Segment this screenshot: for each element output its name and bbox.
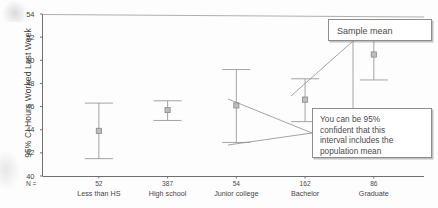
chart-figure: 95% CI Hours Worked Last Week N = 404244… [0, 0, 438, 208]
leader-line-ci-lower [228, 133, 312, 145]
y-axis-tick-label: 44 [19, 125, 35, 134]
mean-marker [165, 107, 170, 112]
error-bar [154, 101, 182, 121]
leader-line-ci-upper [228, 99, 312, 133]
mean-marker [302, 97, 307, 102]
x-axis-category-label: Graduate [334, 189, 414, 198]
x-axis-n-value: 387 [148, 180, 188, 187]
y-axis-tick-label: 42 [19, 148, 35, 157]
n-prefix-label: N = [26, 180, 36, 187]
y-axis-tick-label: 46 [19, 102, 35, 111]
mean-marker [96, 128, 101, 133]
leader-line-sample-mean [291, 41, 353, 96]
annotation-sample-mean-text: Sample mean [337, 26, 393, 36]
y-axis-tick-label: 54 [19, 10, 35, 19]
y-axis-tick-label: 48 [19, 79, 35, 88]
annotation-ci-line-1: You can be 95% [320, 114, 425, 125]
mean-marker [371, 52, 376, 57]
y-axis-tick-label: 52 [19, 33, 35, 42]
x-axis-n-value: 54 [216, 180, 256, 187]
error-bar [85, 103, 113, 159]
annotation-ci-line-4: population mean [320, 146, 425, 157]
top-frame-line [43, 15, 425, 18]
x-axis-n-value: 162 [285, 180, 325, 187]
x-axis-n-value: 86 [354, 180, 394, 187]
annotation-confidence-interval: You can be 95% confident that this inter… [312, 108, 432, 158]
annotation-ci-line-2: confident that this [320, 125, 425, 136]
y-axis-tick-label: 50 [19, 56, 35, 65]
mean-marker [234, 103, 239, 108]
x-axis-n-value: 52 [79, 180, 119, 187]
annotation-sample-mean: Sample mean [328, 19, 432, 41]
annotation-ci-line-3: interval includes the [320, 135, 425, 146]
y-axis-tick-label: 40 [19, 172, 35, 181]
